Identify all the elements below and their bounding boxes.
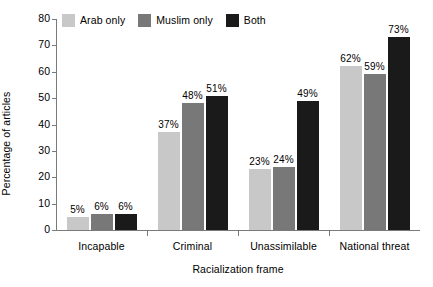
plot-area: 5%6%6%37%48%51%23%24%49%62%59%73% bbox=[56, 19, 420, 230]
legend-label-both: Both bbox=[244, 15, 266, 26]
bar-value-label: 49% bbox=[297, 88, 317, 99]
bar-group: 23%24%49% bbox=[238, 19, 329, 230]
legend-item-muslim-only: Muslim only bbox=[138, 14, 213, 27]
y-axis-tick-label: 70 bbox=[24, 39, 50, 50]
bar-value-label: 62% bbox=[340, 53, 360, 64]
bar[interactable]: 6% bbox=[91, 214, 113, 230]
bar[interactable]: 23% bbox=[249, 169, 271, 230]
y-axis-tick-label: 10 bbox=[24, 198, 50, 209]
legend-item-both: Both bbox=[226, 14, 266, 27]
legend-swatch-icon-both bbox=[226, 14, 239, 27]
chart-legend: Arab only Muslim only Both bbox=[62, 13, 279, 28]
bar[interactable]: 5% bbox=[67, 217, 89, 230]
bar-value-label: 23% bbox=[249, 156, 269, 167]
legend-item-arab-only: Arab only bbox=[62, 14, 125, 27]
bar-value-label: 5% bbox=[70, 204, 85, 215]
legend-swatch-icon-muslim-only bbox=[138, 14, 151, 27]
legend-swatch-icon-arab-only bbox=[62, 14, 75, 27]
x-axis-category-label: Criminal bbox=[173, 240, 212, 252]
bar-value-label: 51% bbox=[206, 83, 226, 94]
y-axis-tick-label: 50 bbox=[24, 92, 50, 103]
x-axis-category-label: Unassimilable bbox=[250, 240, 317, 252]
y-axis-title-text: Percentage of articles bbox=[0, 92, 12, 196]
x-axis-title-text: Racialization frame bbox=[192, 263, 283, 275]
x-axis-tick-mark bbox=[147, 231, 148, 236]
bar[interactable]: 37% bbox=[158, 132, 180, 230]
y-axis-title: Percentage of articles bbox=[0, 0, 18, 287]
y-axis-tick-mark bbox=[52, 230, 56, 231]
bar[interactable]: 48% bbox=[182, 103, 204, 230]
bar[interactable]: 6% bbox=[115, 214, 137, 230]
y-axis-tick-label: 0 bbox=[24, 224, 50, 235]
bar[interactable]: 51% bbox=[206, 96, 228, 231]
bar-value-label: 6% bbox=[94, 201, 109, 212]
bar[interactable]: 73% bbox=[388, 37, 410, 230]
y-axis-tick-label: 60 bbox=[24, 66, 50, 77]
bar-value-label: 59% bbox=[364, 61, 384, 72]
y-axis-tick-label: 30 bbox=[24, 145, 50, 156]
bar[interactable]: 59% bbox=[364, 74, 386, 230]
grouped-bar-chart: Arab only Muslim only Both Percentage of… bbox=[0, 0, 433, 287]
bar-value-label: 37% bbox=[158, 119, 178, 130]
y-axis-tick-label: 80 bbox=[24, 13, 50, 24]
bar-group: 37%48%51% bbox=[147, 19, 238, 230]
bar[interactable]: 24% bbox=[273, 167, 295, 230]
bar-value-label: 6% bbox=[118, 201, 133, 212]
bar-group: 5%6%6% bbox=[56, 19, 147, 230]
bar[interactable]: 62% bbox=[340, 66, 362, 230]
x-axis-tick-mark bbox=[329, 231, 330, 236]
x-axis-tick-mark bbox=[238, 231, 239, 236]
x-axis-title: Racialization frame bbox=[56, 263, 420, 275]
bar-value-label: 24% bbox=[273, 154, 293, 165]
y-axis-tick-label: 40 bbox=[24, 119, 50, 130]
y-axis-tick-label: 20 bbox=[24, 171, 50, 182]
bar[interactable]: 49% bbox=[297, 101, 319, 230]
x-axis-category-label: Incapable bbox=[78, 240, 124, 252]
legend-label-muslim-only: Muslim only bbox=[156, 15, 213, 26]
bar-value-label: 73% bbox=[388, 24, 408, 35]
bar-value-label: 48% bbox=[182, 90, 202, 101]
x-axis-category-label: National threat bbox=[340, 240, 410, 252]
bar-group: 62%59%73% bbox=[329, 19, 420, 230]
legend-label-arab-only: Arab only bbox=[80, 15, 125, 26]
